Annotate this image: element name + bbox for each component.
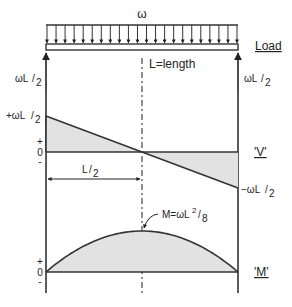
shear-min-slash: /: [265, 184, 268, 195]
shear-max-base: +ωL: [6, 110, 26, 121]
moment-max-base: M=ωL: [162, 209, 190, 220]
half-span-den: 2: [93, 168, 99, 179]
beam: [46, 44, 238, 50]
left-reaction-den: 2: [36, 77, 42, 88]
left-reaction-label: ωL / 2: [15, 73, 42, 88]
right-reaction-label: ωL / 2: [244, 73, 271, 88]
shear-max-slash: /: [31, 110, 34, 121]
left-reaction-slash: /: [32, 73, 35, 84]
distributed-load: [46, 25, 238, 43]
shear-label: 'V': [254, 145, 267, 159]
shear-min-den: 2: [269, 188, 275, 199]
half-span-slash: /: [89, 164, 92, 175]
moment-max-label: M=ωL 2 / 8: [162, 206, 208, 224]
moment-max-slash: /: [198, 209, 201, 220]
moment-plus-sign: +: [37, 256, 43, 267]
moment-max-sup: 2: [192, 206, 197, 215]
moment-max-leader: [144, 214, 158, 228]
moment-max-den: 8: [202, 213, 208, 224]
shear-minus-sign: -: [38, 156, 41, 167]
shear-min-label: −ωL / 2: [241, 184, 275, 199]
moment-diagram: + 0 - M=ωL 2 / 8 'M': [37, 206, 269, 287]
shear-plus-sign: +: [37, 136, 43, 147]
beam-diagram: ω Load L=length ωL / 2 ωL / 2 +ωL / 2: [0, 0, 292, 307]
load-symbol: ω: [137, 7, 146, 21]
shear-max-label: +ωL / 2: [6, 110, 41, 125]
left-reaction-base: ωL: [15, 73, 29, 84]
right-reaction-den: 2: [265, 77, 271, 88]
right-reaction-slash: /: [261, 73, 264, 84]
right-reaction-base: ωL: [244, 73, 258, 84]
length-label: L=length: [149, 57, 195, 71]
load-label: Load: [255, 39, 282, 53]
half-span-label: L / 2: [82, 164, 99, 179]
moment-minus-sign: -: [38, 276, 41, 287]
shear-min-base: −ωL: [241, 184, 261, 195]
moment-label: 'M': [254, 265, 269, 279]
half-span-base: L: [82, 164, 88, 175]
shear-max-den: 2: [35, 114, 41, 125]
load-arrows: [47, 25, 237, 43]
